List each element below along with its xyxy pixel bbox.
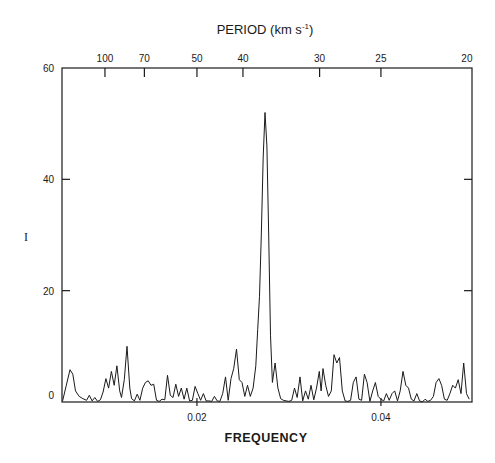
x-axis-label: FREQUENCY xyxy=(225,431,308,445)
top-tick-label: 100 xyxy=(97,53,114,64)
x-tick-label: 0.02 xyxy=(187,412,207,423)
plot-frame xyxy=(62,68,472,402)
y-axis-ticks: 0204060 xyxy=(43,63,472,401)
y-tick-label: 0 xyxy=(48,390,54,401)
top-axis-title: PERIOD (km s-1) xyxy=(217,22,314,37)
x-tick-label: 0.04 xyxy=(371,412,391,423)
y-tick-label: 20 xyxy=(43,286,55,297)
top-tick-label: 50 xyxy=(191,53,203,64)
periodogram-chart: PERIOD (km s-1) 0204060 0.020.04 1007050… xyxy=(0,0,495,463)
top-axis-ticks: 100705040302520 xyxy=(97,53,473,77)
top-tick-label: 20 xyxy=(461,53,473,64)
spectrum-line xyxy=(63,113,470,403)
y-tick-label: 40 xyxy=(43,174,55,185)
y-axis-label: I xyxy=(24,230,28,244)
top-tick-label: 30 xyxy=(314,53,326,64)
y-tick-label: 60 xyxy=(43,63,55,74)
top-tick-label: 25 xyxy=(375,53,387,64)
top-tick-label: 70 xyxy=(139,53,151,64)
top-tick-label: 40 xyxy=(237,53,249,64)
